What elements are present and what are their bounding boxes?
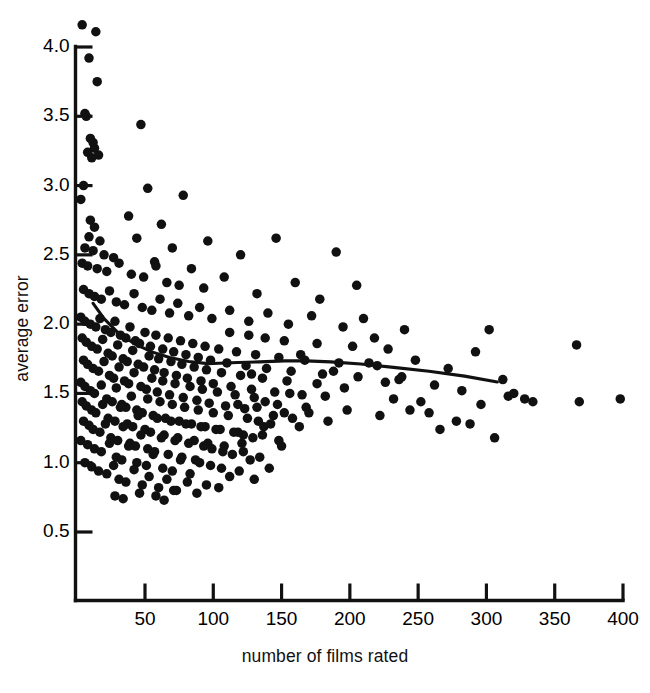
- scatter-point: [209, 408, 219, 418]
- scatter-point: [139, 362, 149, 372]
- scatter-point: [97, 380, 107, 390]
- scatter-point: [307, 311, 317, 321]
- scatter-point: [282, 376, 292, 386]
- scatter-point: [138, 303, 148, 313]
- y-tick-label: 3.0: [14, 174, 70, 196]
- scatter-point: [153, 387, 163, 397]
- scatter-point: [159, 368, 169, 378]
- scatter-point: [214, 483, 224, 493]
- y-tick-label: 1.0: [14, 451, 70, 473]
- scatter-point: [99, 250, 109, 259]
- scatter-point: [237, 439, 247, 449]
- scatter-point: [247, 369, 257, 379]
- scatter-point: [146, 427, 156, 437]
- scatter-point: [98, 335, 108, 345]
- scatter-point: [92, 77, 102, 87]
- scatter-point: [174, 281, 184, 291]
- scatter-point: [151, 330, 161, 340]
- scatter-point: [91, 322, 101, 332]
- scatter-point: [202, 365, 212, 375]
- scatter-point: [250, 393, 260, 403]
- scatter-point: [348, 342, 358, 352]
- scatter-point: [383, 344, 393, 354]
- scatter-point: [162, 475, 172, 485]
- scatter-point: [229, 427, 239, 437]
- scatter-point: [97, 294, 107, 304]
- scatter-point: [176, 455, 186, 465]
- scatter-point: [176, 336, 186, 346]
- scatter-point: [169, 486, 179, 496]
- scatter-point: [424, 408, 434, 418]
- scatter-point: [312, 379, 322, 389]
- scatter-point: [498, 375, 508, 385]
- scatter-point: [76, 195, 86, 205]
- scatter-point: [102, 267, 112, 277]
- scatter-point: [247, 385, 257, 395]
- scatter-point: [484, 325, 494, 335]
- scatter-point: [400, 325, 410, 335]
- scatter-point: [147, 373, 157, 383]
- scatter-point: [173, 299, 183, 309]
- scatter-point: [123, 357, 133, 367]
- scatter-point: [158, 464, 168, 474]
- scatter-point: [140, 328, 150, 338]
- scatter-point: [127, 270, 137, 280]
- scatter-point: [109, 461, 119, 471]
- scatter-point: [155, 397, 165, 407]
- scatter-point: [297, 390, 307, 400]
- scatter-point: [200, 342, 210, 352]
- scatter-point: [77, 20, 87, 30]
- scatter-point: [157, 220, 167, 230]
- scatter-point: [443, 364, 453, 374]
- scatter-point: [233, 400, 243, 410]
- scatter-point: [163, 333, 173, 343]
- scatter-point: [202, 480, 212, 490]
- scatter-point: [528, 397, 538, 407]
- scatter-point: [616, 394, 626, 404]
- scatter-point: [204, 398, 214, 408]
- scatter-point: [331, 247, 341, 257]
- scatter-point: [195, 303, 205, 313]
- scatter-point: [144, 472, 154, 482]
- scatter-point: [98, 400, 108, 410]
- scatter-point: [323, 416, 333, 426]
- scatter-point: [128, 422, 138, 432]
- x-tick-label: 200: [320, 608, 380, 630]
- scatter-point: [286, 367, 296, 377]
- scatter-point: [181, 419, 191, 429]
- scatter-point: [284, 319, 294, 329]
- scatter-point: [107, 351, 117, 361]
- y-tick-label: 4.0: [14, 35, 70, 57]
- scatter-point: [92, 264, 102, 274]
- scatter-point: [245, 455, 255, 465]
- scatter-point: [138, 480, 148, 490]
- scatter-point: [135, 488, 145, 498]
- scatter-point: [236, 371, 246, 381]
- scatter-point: [87, 153, 97, 163]
- scatter-point: [236, 250, 246, 259]
- scatter-point: [129, 465, 139, 475]
- scatter-point: [435, 425, 445, 435]
- scatter-point: [153, 414, 163, 424]
- figure-container: 50100150200250300350400 0.51.01.52.02.53…: [0, 0, 650, 693]
- scatter-point: [258, 373, 268, 383]
- scatter-point: [271, 233, 281, 243]
- scatter-point: [228, 450, 238, 460]
- scatter-point: [239, 447, 249, 457]
- scatter-point: [120, 300, 130, 310]
- scatter-point: [158, 376, 168, 386]
- scatter-point: [389, 394, 399, 404]
- scatter-point: [203, 236, 213, 246]
- scatter-point: [136, 120, 146, 130]
- scatter-point: [265, 464, 275, 474]
- scatter-point: [102, 469, 112, 479]
- scatter-point: [143, 394, 153, 404]
- scatter-point: [80, 243, 90, 253]
- scatter-point: [295, 422, 305, 432]
- scatter-point: [224, 411, 234, 421]
- scatter-point: [290, 278, 300, 288]
- scatter-point: [262, 364, 272, 374]
- scatter-point: [168, 243, 178, 253]
- scatter-point: [195, 458, 205, 468]
- scatter-point: [95, 427, 105, 437]
